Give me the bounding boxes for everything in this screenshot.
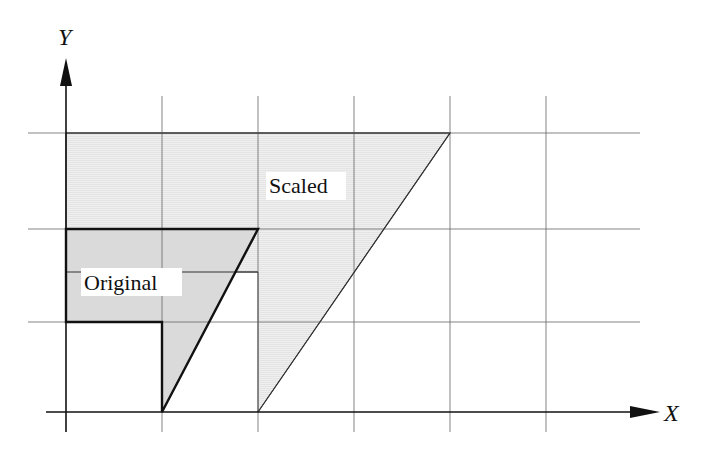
y-axis-arrow-icon <box>60 58 72 86</box>
original-label: Original <box>84 270 157 295</box>
y-axis-label: Y <box>58 24 74 50</box>
x-axis-arrow-icon <box>630 406 660 418</box>
scaling-diagram: Y X Original Scaled <box>0 0 708 460</box>
scaled-label: Scaled <box>269 173 328 198</box>
x-axis-label: X <box>663 400 680 426</box>
